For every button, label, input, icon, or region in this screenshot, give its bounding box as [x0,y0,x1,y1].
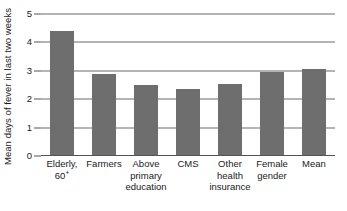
y-axis-title: Mean days of fever in last two weeks [0,0,16,172]
x-axis-label-line: CMS [167,158,209,170]
bar [218,84,242,156]
bars-layer [41,14,335,156]
y-tick-mark [34,42,41,43]
x-axis-label: Femalegender [251,158,293,181]
plot-area [41,14,335,156]
y-tick-label: 0 [27,151,32,161]
bar [134,85,158,156]
bar [302,69,326,156]
y-tick-mark [34,99,41,100]
y-tick-label: 4 [27,38,32,48]
y-tick-mark [34,156,41,157]
x-axis-label-line: education [125,181,167,193]
x-axis-label-line: primary [125,170,167,182]
bar [50,31,74,156]
x-axis-label-line: Female [251,158,293,170]
x-axis-label-line: 60+ [41,170,83,182]
x-axis-label-line: Other [209,158,251,170]
x-axis-label: CMS [167,158,209,170]
y-tick-mark [34,70,41,71]
x-axis-label: Farmers [83,158,125,170]
x-axis-label-line: Farmers [83,158,125,170]
bar [176,89,200,156]
y-tick-mark [34,14,41,15]
x-axis-label: Otherhealthinsurance [209,158,251,193]
y-tick-label: 5 [27,9,32,19]
y-axis-tick-labels: 012345 [18,14,32,156]
bar-chart: Mean days of fever in last two weeks 012… [0,0,347,211]
superscript-plus: + [65,168,69,175]
y-tick-label: 3 [27,66,32,76]
x-axis-label-line: gender [251,170,293,182]
x-axis-label: Aboveprimaryeducation [125,158,167,193]
x-axis-label-line: Elderly, [41,158,83,170]
x-axis-label-line: insurance [209,181,251,193]
y-tick-label: 2 [27,94,32,104]
x-axis-label: Elderly,60+ [41,158,83,181]
x-axis-line [41,155,335,156]
x-axis-label: Mean [293,158,335,170]
bar [92,74,116,156]
y-tick-label: 1 [27,123,32,133]
x-axis-label-line: health [209,170,251,182]
x-axis-label-line: Mean [293,158,335,170]
y-tick-mark [34,127,41,128]
y-axis-title-text: Mean days of fever in last two weeks [3,7,14,164]
x-axis-labels: Elderly,60+FarmersAboveprimaryeducationC… [41,158,335,210]
bar [260,72,284,156]
x-axis-label-line: Above [125,158,167,170]
